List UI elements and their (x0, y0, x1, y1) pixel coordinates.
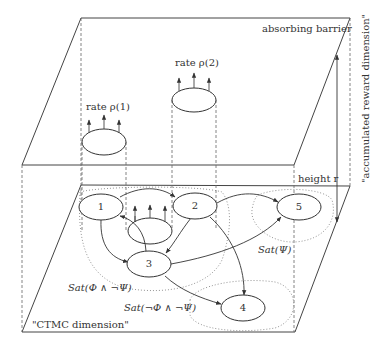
rate-2-label: rate ρ(2) (175, 57, 219, 68)
height-r-label: height r (298, 173, 339, 184)
state-3-label: 3 (146, 258, 152, 269)
state-1-label: 1 (98, 201, 104, 212)
sat-not-phi-not-psi-label: Sat(¬Φ ∧ ¬Ψ) (124, 302, 196, 313)
sat-phi-not-psi-label: Sat(Φ ∧ ¬Ψ) (68, 282, 132, 293)
projected-ellipse (128, 205, 172, 244)
sat-psi-label: Sat(Ψ) (258, 244, 292, 255)
accumulated-reward-label: "accumulated reward dimension" (360, 14, 371, 183)
state-3: 3 (127, 251, 171, 277)
state-2: 2 (173, 193, 217, 219)
rate-1-label: rate ρ(1) (86, 101, 130, 112)
reward-ellipse-1: rate ρ(1) (82, 101, 130, 155)
state-4-label: 4 (240, 302, 246, 313)
diagram-canvas: 1 2 3 4 5 rate ρ(1) rate ρ(2) absorbing … (0, 0, 387, 352)
state-4: 4 (221, 295, 265, 321)
state-5: 5 (277, 194, 321, 220)
ctmc-dimension-label: "CTMC dimension" (32, 319, 129, 330)
state-1: 1 (79, 194, 123, 220)
state-2-label: 2 (192, 200, 198, 211)
state-5-label: 5 (296, 201, 302, 212)
absorbing-barrier-label: absorbing barrier (262, 23, 352, 34)
reward-ellipse-2: rate ρ(2) (172, 57, 219, 112)
